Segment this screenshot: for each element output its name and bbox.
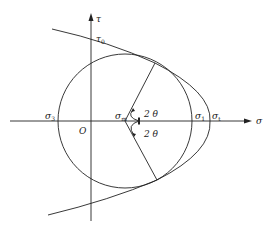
sigma-axis-arrow-icon (244, 119, 252, 124)
angle-upper-label: 2 θ (143, 109, 159, 119)
angle-arc-lower (131, 121, 139, 135)
tau0-label: τ0 (96, 34, 105, 45)
sigma-axis-label: σ (256, 116, 263, 126)
tau-axis-arrow-icon (89, 13, 94, 21)
angle-lower-label: 2 θ (143, 129, 159, 139)
angle-marker-icon (138, 118, 140, 125)
tau-axis-label: τ (96, 14, 102, 24)
origin-label: O (79, 126, 87, 136)
sigma1-circle-label: σ1 (195, 111, 205, 122)
failure-envelope (48, 29, 210, 215)
mohr-diagram: τ τ0 σ O σ3 σm σ1 σt 2 θ 2 θ (0, 0, 278, 234)
sigma-m-label: σm (115, 111, 127, 122)
sigma1-envelope-label: σt (212, 111, 221, 122)
sigma3-label: σ3 (45, 111, 55, 122)
